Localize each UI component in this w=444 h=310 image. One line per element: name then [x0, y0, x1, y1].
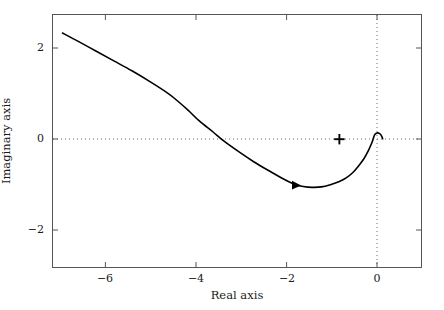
chart-figure: 2 0 −2 −6 −4 −2 0 Real axis Imaginary ax…	[0, 0, 444, 310]
direction-arrow-icon	[292, 181, 301, 190]
x-tick-label-minus4: −4	[181, 272, 211, 285]
x-tick-label-minus6: −6	[90, 272, 120, 285]
x-tick-label-minus2: −2	[272, 272, 302, 285]
x-tick-label-0: 0	[362, 272, 392, 285]
y-axis-title: Imaginary axis	[0, 71, 13, 211]
nyquist-locus-curve	[62, 33, 382, 187]
y-tick-label-minus2: −2	[18, 223, 44, 236]
plot-canvas	[0, 0, 444, 310]
y-tick-label-2: 2	[18, 41, 44, 54]
plus-marker-icon	[334, 134, 344, 144]
x-axis-title: Real axis	[52, 288, 422, 302]
y-tick-label-0: 0	[18, 132, 44, 145]
x-axis-ticks	[105, 15, 377, 267]
